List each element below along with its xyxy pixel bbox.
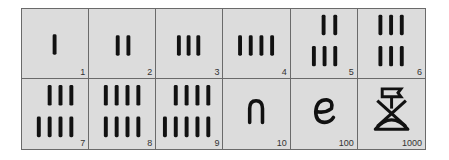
two-strokes-icon (89, 9, 155, 78)
cell-1000: 1000 (358, 79, 425, 149)
value-label: 4 (282, 67, 287, 77)
cell-1: 1 (22, 9, 89, 79)
seven-strokes-icon (22, 79, 88, 149)
cell-5: 5 (291, 9, 358, 79)
three-strokes-icon (156, 9, 222, 78)
four-strokes-icon (223, 9, 289, 78)
value-label: 100 (339, 138, 354, 148)
six-strokes-icon (358, 9, 425, 78)
cell-10: 10 (223, 79, 290, 149)
value-label: 1 (80, 67, 85, 77)
cell-100: 100 (291, 79, 358, 149)
value-label: 1000 (402, 138, 422, 148)
cell-8: 8 (89, 79, 156, 149)
cell-2: 2 (89, 9, 156, 79)
value-label: 6 (417, 67, 422, 77)
cell-4: 4 (223, 9, 290, 79)
value-label: 5 (349, 67, 354, 77)
value-label: 7 (80, 138, 85, 148)
eight-strokes-icon (89, 79, 155, 149)
cell-9: 9 (156, 79, 223, 149)
five-strokes-icon (291, 9, 357, 78)
value-label: 8 (147, 138, 152, 148)
value-label: 2 (147, 67, 152, 77)
numeral-grid: 1 2 3 4 5 (21, 8, 426, 150)
cell-7: 7 (22, 79, 89, 149)
cell-6: 6 (358, 9, 425, 79)
value-label: 9 (214, 138, 219, 148)
one-stroke-icon (22, 9, 88, 78)
cell-3: 3 (156, 9, 223, 79)
value-label: 3 (214, 67, 219, 77)
value-label: 10 (277, 138, 287, 148)
nine-strokes-icon (156, 79, 222, 149)
